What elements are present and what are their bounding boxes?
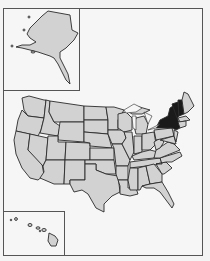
lake-michigan [132, 116, 136, 130]
state-arkansas [116, 166, 128, 180]
state-north-dakota [84, 106, 108, 120]
contiguous-us [14, 92, 194, 212]
state-arizona [40, 160, 65, 184]
state-indiana [134, 136, 142, 154]
state-wisconsin [118, 112, 132, 132]
state-mississippi [128, 168, 138, 190]
state-colorado [65, 142, 90, 160]
state-ohio [142, 132, 156, 150]
state-florida [142, 182, 174, 208]
us-map [0, 0, 210, 261]
state-wyoming [58, 122, 84, 142]
state-maine [182, 92, 194, 114]
state-connecticut [178, 121, 186, 128]
hawaii [10, 218, 58, 246]
alaska [11, 11, 78, 84]
state-kansas [90, 148, 114, 160]
state-montana [49, 101, 84, 122]
